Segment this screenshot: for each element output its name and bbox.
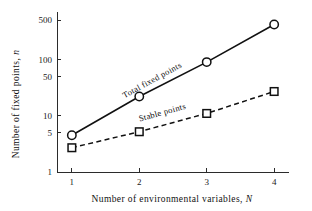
x-tick-label: 1 bbox=[70, 177, 75, 187]
y-axis-title: Number of fixed points,n bbox=[11, 50, 21, 159]
series-layer bbox=[68, 20, 279, 151]
y-tick-label: 100 bbox=[39, 55, 53, 65]
figure-container: Number of fixed points,n Number of envir… bbox=[0, 0, 312, 211]
svg-text:Number of fixed points,n: Number of fixed points,n bbox=[11, 50, 21, 159]
series-annotations: Total fixed pointsStable points bbox=[121, 60, 188, 124]
x-axis-title: Number of environmental variables,N bbox=[91, 194, 252, 204]
data-point-circle bbox=[270, 20, 278, 28]
y-tick-label: 50 bbox=[43, 72, 53, 82]
data-point-circle bbox=[203, 58, 211, 66]
y-tick-label: 10 bbox=[43, 111, 53, 121]
x-axis-title-text: Number of environmental variables, bbox=[91, 194, 242, 204]
series-label-1: Total fixed points bbox=[121, 60, 184, 101]
svg-text:Number of environmental variab: Number of environmental variables,N bbox=[91, 194, 252, 204]
series-line-2 bbox=[72, 92, 274, 148]
y-tick-label: 5 bbox=[48, 128, 53, 138]
x-tick-label: 2 bbox=[137, 177, 142, 187]
data-point-square bbox=[270, 88, 278, 96]
x-axis-title-symbol: N bbox=[245, 194, 253, 204]
line-chart: Number of fixed points,n Number of envir… bbox=[0, 0, 312, 211]
y-axis-ticks: 151050100500 bbox=[39, 15, 62, 177]
x-tick-label: 3 bbox=[204, 177, 209, 187]
x-tick-label: 4 bbox=[272, 177, 277, 187]
series-line-1 bbox=[72, 24, 274, 135]
y-axis-title-text: Number of fixed points, bbox=[11, 58, 21, 159]
x-axis-ticks: 1234 bbox=[70, 168, 277, 187]
data-point-square bbox=[203, 110, 211, 118]
y-axis-title-symbol: n bbox=[11, 50, 21, 55]
y-tick-label: 1 bbox=[48, 167, 53, 177]
data-point-square bbox=[135, 128, 143, 136]
data-point-square bbox=[68, 144, 76, 152]
y-tick-label: 500 bbox=[39, 15, 53, 25]
data-point-circle bbox=[68, 131, 76, 139]
